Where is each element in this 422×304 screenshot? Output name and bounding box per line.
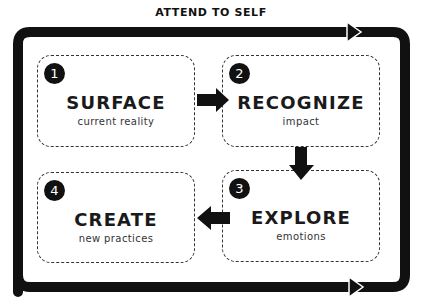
- step-title: RECOGNIZE: [223, 92, 379, 113]
- bottom-loop-arrowhead: [349, 277, 363, 297]
- step-subtitle: emotions: [223, 231, 379, 242]
- loop-label: ATTEND TO SELF: [0, 6, 422, 19]
- step-number-badge: 3: [229, 178, 250, 199]
- arrow-down-icon: [288, 146, 315, 181]
- step-subtitle: new practices: [38, 233, 194, 244]
- step-title: SURFACE: [38, 92, 194, 113]
- step-explore-box: 3 EXPLORE emotions: [222, 170, 380, 262]
- step-subtitle: current reality: [38, 116, 194, 127]
- step-surface-box: 1 SURFACE current reality: [37, 55, 195, 147]
- step-number-badge: 4: [44, 180, 65, 201]
- step-title: EXPLORE: [223, 207, 379, 228]
- step-number-badge: 2: [229, 63, 250, 84]
- step-title: CREATE: [38, 209, 194, 230]
- step-number-badge: 1: [44, 63, 65, 84]
- arrow-right-icon: [196, 87, 230, 113]
- step-subtitle: impact: [223, 116, 379, 127]
- top-loop-arrowhead: [347, 22, 361, 42]
- step-recognize-box: 2 RECOGNIZE impact: [222, 55, 380, 147]
- arrow-left-icon: [196, 205, 231, 231]
- step-create-box: 4 CREATE new practices: [37, 172, 195, 263]
